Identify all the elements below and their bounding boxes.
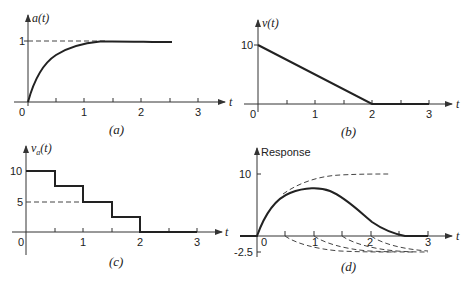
x-tick-1: 1	[80, 236, 86, 248]
ramp-down-line	[258, 45, 429, 104]
x-tick-3: 3	[195, 106, 201, 118]
y-label: Response	[261, 146, 311, 158]
y-label: a(t)	[32, 11, 49, 25]
x-tick-3: 3	[194, 236, 200, 248]
x-tick-2: 2	[369, 108, 375, 120]
caption-a: (a)	[109, 122, 124, 137]
total-response-curve	[240, 188, 428, 236]
x-tick-1: 1	[312, 108, 318, 120]
x-tick-3: 3	[426, 108, 432, 120]
caption-d: (d)	[341, 259, 356, 274]
step-response-curve	[28, 41, 172, 102]
y-tick-10: 10	[239, 168, 251, 180]
caption-c: (c)	[109, 254, 123, 269]
panel-d: 10 -2.5 0 1 2 3 t Response (d)	[234, 146, 460, 274]
y-tick-1: 1	[19, 35, 25, 47]
y-tick-10: 10	[241, 39, 253, 51]
x-tick-0: 0	[250, 108, 256, 120]
x-tick-2: 2	[367, 236, 373, 248]
x-ticks	[56, 98, 198, 102]
x-label: t	[225, 225, 229, 239]
x-tick-2: 2	[138, 106, 144, 118]
x-tick-1: 1	[81, 106, 87, 118]
component-shift-0.5	[285, 236, 395, 252]
y-label: va(t)	[31, 141, 52, 157]
x-tick-2: 2	[137, 236, 143, 248]
x-tick-0: 0	[19, 106, 25, 118]
y-tick-neg2.5: -2.5	[234, 246, 253, 258]
x-tick-0: 0	[261, 236, 267, 248]
x-label: t	[229, 95, 233, 109]
figure: 1 0 1 2 3 t a(t) (a) 10 0 1 2 3 t v(t) (…	[0, 0, 468, 284]
x-tick-0: 0	[18, 236, 24, 248]
x-tick-3: 3	[425, 236, 431, 248]
component-shift-2	[371, 236, 428, 251]
panel-a: 1 0 1 2 3 t a(t) (a)	[14, 11, 233, 137]
x-tick-1: 1	[312, 236, 318, 248]
y-tick-5: 5	[17, 196, 23, 208]
panel-c: 10 5 0 1 2 3 t va(t) (c)	[10, 141, 229, 269]
x-label: t	[456, 97, 460, 111]
caption-b: (b)	[341, 124, 356, 139]
component-shift-1	[314, 236, 415, 252]
y-tick-10: 10	[10, 165, 22, 177]
y-label: v(t)	[262, 16, 279, 30]
x-label: t	[456, 229, 460, 243]
panel-b: 10 0 1 2 3 t v(t) (b)	[241, 16, 460, 139]
